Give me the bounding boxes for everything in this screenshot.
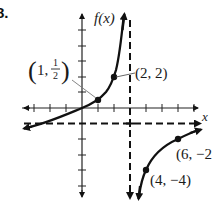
label-point-1-half: ( 1, 1 2 ) (28, 56, 70, 85)
svg-text:(: ( (28, 56, 37, 85)
label-point-2-2: (2, 2) (135, 65, 168, 82)
label-point-6-neg2: (6, −2 (176, 146, 212, 163)
point-4-neg4 (143, 167, 149, 173)
x-axis (22, 104, 198, 112)
x-axis-label: x (201, 109, 208, 124)
svg-text:): ) (61, 56, 70, 85)
svg-text:2: 2 (53, 70, 58, 81)
y-axis (78, 14, 86, 197)
point-6-neg2 (175, 136, 181, 142)
label-point-4-neg4: (4, −4) (150, 172, 191, 189)
svg-text:1: 1 (53, 57, 58, 68)
svg-text:1,: 1, (37, 62, 48, 78)
function-graph: f(x) x ( 1, 1 2 ) (2, 2) (6, −2 (4, −4) (0, 0, 214, 203)
y-axis-label: f(x) (94, 10, 115, 27)
